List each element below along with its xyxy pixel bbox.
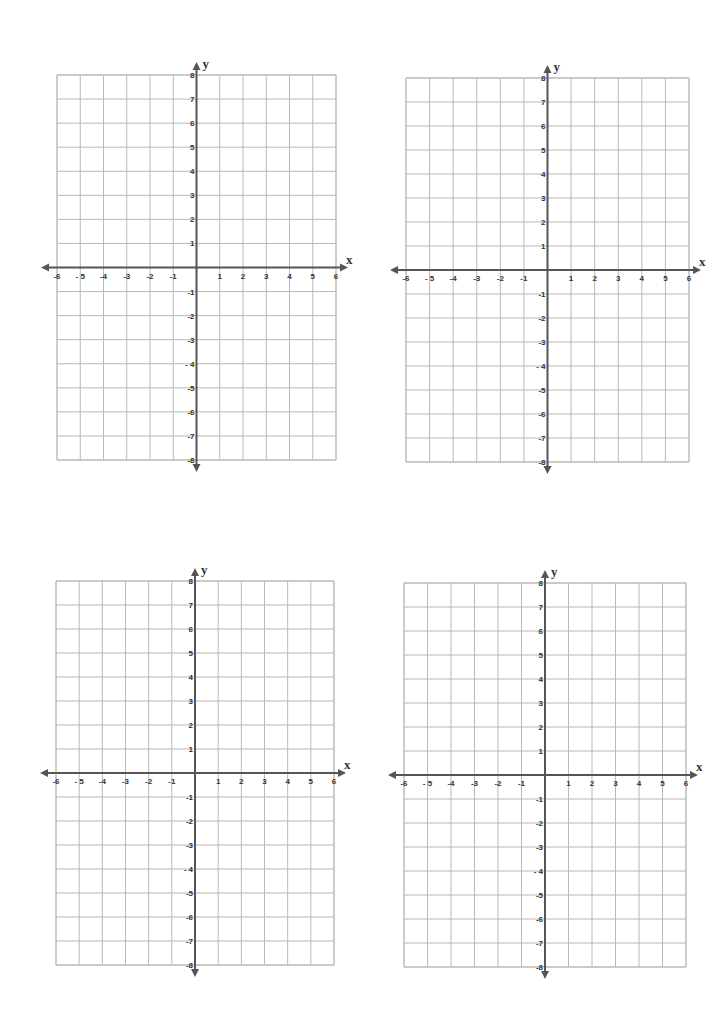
x-tick-label: -3 <box>471 779 479 788</box>
y-tick-label: -2 <box>536 819 544 828</box>
y-tick-label: 5 <box>539 651 544 660</box>
y-tick-label: - 4 <box>534 867 544 876</box>
y-tick-label: -6 <box>536 915 544 924</box>
x-tick-label: 1 <box>566 779 571 788</box>
y-tick-label: 7 <box>539 603 544 612</box>
y-tick-label: 1 <box>539 747 544 756</box>
axes: xy <box>388 564 703 979</box>
arrow-left-icon <box>388 771 396 779</box>
y-tick-label: 4 <box>539 675 544 684</box>
x-tick-label: -4 <box>447 779 455 788</box>
x-tick-label: -2 <box>494 779 502 788</box>
grid-svg: xy-6- 5-4-3-2-112345687654321-1-2-3- 4-5… <box>0 0 727 1012</box>
x-tick-label: - 5 <box>423 779 433 788</box>
y-tick-label: -8 <box>536 963 544 972</box>
x-tick-label: 2 <box>590 779 595 788</box>
y-tick-label: 3 <box>539 699 544 708</box>
x-axis-label: x <box>696 759 703 774</box>
y-tick-label: -1 <box>536 795 544 804</box>
y-tick-label: -5 <box>536 891 544 900</box>
y-tick-label: 6 <box>539 627 544 636</box>
y-tick-label: -7 <box>536 939 544 948</box>
x-tick-label: 3 <box>613 779 618 788</box>
x-tick-label: -1 <box>518 779 526 788</box>
y-axis-label: y <box>551 564 558 579</box>
y-tick-label: -3 <box>536 843 544 852</box>
y-tick-label: 8 <box>539 579 544 588</box>
x-tick-label: 4 <box>637 779 642 788</box>
x-tick-label: 6 <box>684 779 689 788</box>
x-tick-label: -6 <box>400 779 408 788</box>
arrow-down-icon <box>541 971 549 979</box>
y-tick-label: 2 <box>539 723 544 732</box>
x-tick-label: 5 <box>660 779 665 788</box>
arrow-up-icon <box>541 570 549 578</box>
